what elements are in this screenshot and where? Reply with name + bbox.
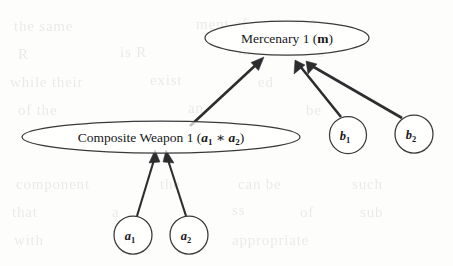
- composite-label-main: Composite Weapon 1 (: [78, 130, 202, 145]
- edge-composite-to-mercenary: [190, 57, 264, 126]
- diagram-canvas: Mercenary 1 (m) Composite Weapon 1 (a1 ∗…: [0, 0, 453, 266]
- mercenary-label-close: ): [329, 31, 334, 46]
- node-a1[interactable]: a1: [114, 216, 152, 254]
- mercenary-label-main: Mercenary 1 (: [241, 31, 318, 46]
- edge-a2-to-composite: [163, 150, 186, 216]
- node-b2[interactable]: b2: [395, 115, 433, 153]
- b1-label-sub: 1: [346, 135, 350, 145]
- figure-root: the samement ofaRis Rinswhile theirexist…: [0, 0, 453, 266]
- composite-label-close: ): [240, 130, 245, 145]
- a2-label-sub: 2: [187, 235, 191, 245]
- node-composite-weapon-1[interactable]: Composite Weapon 1 (a1 ∗ a2): [22, 121, 300, 153]
- composite-label-op: ∗: [216, 130, 225, 145]
- b2-label-sub: 2: [412, 134, 416, 144]
- a1-label-sub: 1: [131, 235, 135, 245]
- composite-weapon-label: Composite Weapon 1 (a1 ∗ a2): [78, 130, 244, 147]
- mercenary-label-var: m: [317, 31, 329, 46]
- node-b1[interactable]: b1: [330, 117, 367, 154]
- node-a2[interactable]: a2: [170, 216, 208, 254]
- edge-a1-to-composite: [137, 150, 160, 216]
- mercenary-label: Mercenary 1 (m): [241, 31, 333, 46]
- node-mercenary-1[interactable]: Mercenary 1 (m): [205, 21, 369, 55]
